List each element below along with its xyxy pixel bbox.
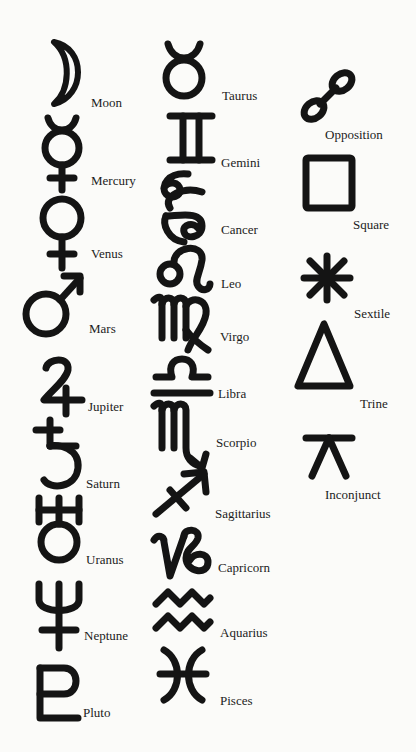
- planet-label-venus: Venus: [91, 246, 123, 261]
- sign-label-capricorn: Capricorn: [218, 560, 270, 575]
- planet-label-mercury: Mercury: [91, 173, 136, 188]
- sign-label-scorpio: Scorpio: [216, 435, 256, 450]
- jupiter-icon: [38, 356, 86, 420]
- sign-label-libra: Libra: [218, 386, 246, 401]
- sign-label-aquarius: Aquarius: [220, 625, 268, 640]
- aspect-label-inconjunct: Inconjunct: [325, 487, 381, 502]
- aspect-label-trine: Trine: [360, 396, 388, 411]
- opposition-icon: [300, 68, 356, 124]
- virgo-icon: [150, 292, 216, 356]
- inconjunct-icon: [302, 432, 356, 482]
- leo-icon: [154, 240, 216, 294]
- planet-label-uranus: Uranus: [86, 552, 124, 567]
- sagittarius-icon: [150, 466, 212, 520]
- neptune-icon: [34, 580, 84, 652]
- square-icon: [302, 154, 358, 212]
- planet-label-mars: Mars: [89, 321, 116, 336]
- saturn-icon: [32, 418, 84, 492]
- sign-label-leo: Leo: [221, 276, 241, 291]
- planet-label-moon: Moon: [91, 95, 122, 110]
- aspect-label-sextile: Sextile: [354, 306, 390, 321]
- scorpio-icon: [150, 398, 214, 476]
- sextile-icon: [300, 252, 354, 304]
- taurus-icon: [160, 40, 208, 102]
- mercury-icon: [38, 114, 86, 194]
- planet-label-neptune: Neptune: [84, 628, 128, 643]
- pluto-icon: [34, 664, 84, 724]
- sign-label-taurus: Taurus: [222, 88, 257, 103]
- aquarius-icon: [152, 584, 214, 638]
- pisces-icon: [156, 646, 210, 704]
- sign-label-virgo: Virgo: [220, 329, 249, 344]
- venus-icon: [38, 196, 86, 272]
- planet-label-saturn: Saturn: [86, 476, 120, 491]
- astrology-symbols-page: Moon Mercury Venus: [0, 0, 416, 752]
- mars-icon: [22, 268, 86, 340]
- sign-label-gemini: Gemini: [221, 155, 260, 170]
- capricorn-icon: [150, 526, 216, 582]
- aspect-label-opposition: Opposition: [325, 127, 383, 142]
- gemini-icon: [166, 110, 216, 166]
- sign-label-pisces: Pisces: [220, 693, 253, 708]
- uranus-icon: [34, 494, 84, 566]
- moon-icon: [48, 38, 88, 108]
- trine-icon: [292, 318, 356, 392]
- aspect-label-square: Square: [353, 217, 389, 232]
- sign-label-cancer: Cancer: [221, 222, 258, 237]
- planet-label-jupiter: Jupiter: [88, 399, 123, 414]
- sign-label-sagittarius: Sagittarius: [215, 506, 271, 521]
- cancer-icon: [154, 168, 214, 246]
- planet-label-pluto: Pluto: [83, 705, 110, 720]
- libra-icon: [150, 355, 214, 399]
